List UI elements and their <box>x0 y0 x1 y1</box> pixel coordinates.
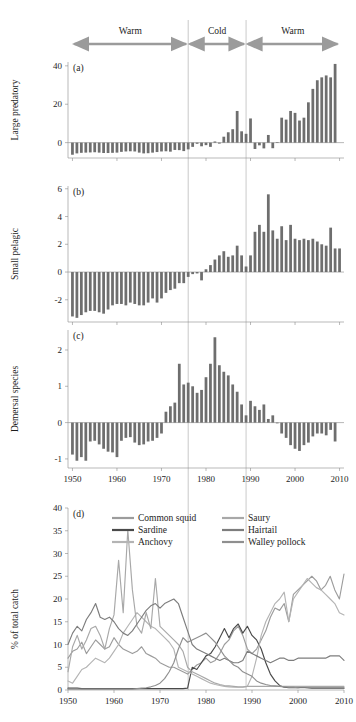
bar-1991 <box>254 232 257 272</box>
bar-1952 <box>80 272 83 315</box>
bar-1995 <box>271 415 274 422</box>
bar-1954 <box>89 143 92 153</box>
bar-2008 <box>329 423 332 430</box>
bar-1958 <box>107 143 110 153</box>
bar-1961 <box>120 272 123 304</box>
bar-1977 <box>191 143 194 147</box>
bar-1960 <box>116 143 119 153</box>
bar-1977 <box>191 272 194 274</box>
bar-1951 <box>76 143 79 154</box>
panel-d-ytick-label-5: 5 <box>58 662 63 672</box>
panel-d-y-title: % of total catch <box>10 589 20 649</box>
bar-2009 <box>334 248 337 272</box>
bar-1992 <box>258 143 261 146</box>
bar-2007 <box>325 246 328 272</box>
bar-1965 <box>138 272 141 305</box>
bar-2004 <box>311 239 314 272</box>
bar-1953 <box>84 143 87 153</box>
panel-b-ytick-label: 6 <box>58 184 63 194</box>
bar-1970 <box>160 143 163 152</box>
bar-1963 <box>129 272 132 303</box>
panel-c-y-title: Demersal species <box>10 366 20 433</box>
panel-c-xtick-label-1970: 1970 <box>152 474 171 484</box>
bar-1952 <box>80 143 83 153</box>
bar-1977 <box>191 386 194 422</box>
panel-d-ytick-label-20: 20 <box>53 594 63 604</box>
panel-c-bars <box>71 337 336 460</box>
bar-1979 <box>200 143 203 147</box>
bar-1975 <box>182 143 185 151</box>
legend-item-walley-pollock[interactable]: Walley pollock <box>222 537 306 547</box>
panel-d: 0510152025303540195019601970198019902000… <box>10 503 354 706</box>
panel-d-ytick-label-10: 10 <box>53 640 63 650</box>
bar-1974 <box>178 272 181 283</box>
bar-1971 <box>165 412 168 423</box>
panel-a-y-title: Large predatory <box>10 79 20 140</box>
legend-label: Saury <box>248 513 270 523</box>
bar-2004 <box>311 423 314 437</box>
bar-1964 <box>133 143 136 152</box>
bar-1950 <box>71 423 74 455</box>
panel-a-x-ticks <box>68 158 344 161</box>
regime-band: WarmColdWarm <box>74 26 337 44</box>
bar-1986 <box>231 384 234 422</box>
bar-1973 <box>173 272 176 289</box>
panel-tag-b: (b) <box>73 187 84 198</box>
bar-2009 <box>334 423 337 442</box>
bar-1956 <box>98 143 101 153</box>
panel-b-ytick-label: -2 <box>55 295 63 305</box>
panel-d-legend: Common squidSardineAnchovySauryHairtailW… <box>112 513 306 547</box>
bar-1980 <box>205 143 208 146</box>
bar-1981 <box>209 364 212 423</box>
bar-1976 <box>187 383 190 423</box>
bar-1989 <box>245 134 248 143</box>
bar-1980 <box>205 269 208 272</box>
panel-b-ytick-label: 2 <box>58 239 63 249</box>
bar-1971 <box>165 272 168 293</box>
bar-1970 <box>160 423 163 434</box>
panel-b-x-ticks <box>68 322 344 325</box>
bar-1955 <box>93 143 96 153</box>
bar-1982 <box>214 337 217 422</box>
bar-1997 <box>280 118 283 143</box>
bar-2007 <box>325 423 328 436</box>
bar-1959 <box>111 272 114 305</box>
panel-a-ytick-label: 40 <box>53 61 63 71</box>
bar-1953 <box>84 423 87 461</box>
bar-2010 <box>338 248 341 272</box>
bar-1999 <box>289 225 292 272</box>
bar-1983 <box>218 143 221 144</box>
fisheries-regime-figure: WarmColdWarm02040(a)Large predatory-2024… <box>0 0 356 722</box>
bar-1962 <box>124 143 127 152</box>
bar-1993 <box>262 143 265 149</box>
bar-1959 <box>111 143 114 153</box>
bar-1992 <box>258 225 261 272</box>
panel-d-ytick-label-35: 35 <box>53 526 63 536</box>
bar-1993 <box>262 232 265 272</box>
legend-item-anchovy[interactable]: Anchovy <box>112 537 173 547</box>
bar-1982 <box>214 141 217 142</box>
bar-2001 <box>298 240 301 272</box>
panel-d-ytick-label-0: 0 <box>58 685 63 695</box>
bar-1996 <box>276 142 279 143</box>
bar-1954 <box>89 423 92 442</box>
panel-tag-d: (d) <box>73 509 84 520</box>
legend-item-common-squid[interactable]: Common squid <box>112 513 197 523</box>
legend-item-hairtail[interactable]: Hairtail <box>222 525 277 535</box>
bar-1965 <box>138 423 141 446</box>
panel-d-ytick-label-15: 15 <box>53 617 63 627</box>
bar-1984 <box>222 251 225 272</box>
panel-c-ytick-label: 1 <box>58 381 63 391</box>
bar-1969 <box>156 272 159 303</box>
bar-1998 <box>285 120 288 143</box>
bar-1982 <box>214 260 217 272</box>
bar-1985 <box>227 257 230 272</box>
bar-1975 <box>182 272 185 283</box>
bar-1973 <box>173 143 176 150</box>
bar-1953 <box>84 272 87 312</box>
bar-1974 <box>178 364 181 423</box>
legend-label: Sardine <box>138 525 167 535</box>
legend-item-sardine[interactable]: Sardine <box>112 525 167 535</box>
bar-1957 <box>102 143 105 153</box>
panel-c-ytick-label: -1 <box>55 454 63 464</box>
